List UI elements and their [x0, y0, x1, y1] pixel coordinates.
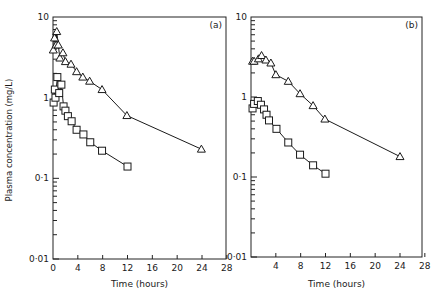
triangle-marker	[59, 49, 67, 56]
x-tick-label: 28	[221, 263, 233, 273]
panel-b-xtick-labels: 481216202428	[273, 261, 431, 271]
panel-b-ticks	[251, 21, 425, 257]
panel-a-ytick-labels: 0·010·1110	[29, 12, 49, 264]
x-tick-label: 16	[345, 261, 357, 271]
triangle-marker	[284, 77, 292, 84]
triangle-marker	[86, 77, 94, 84]
x-tick-label: 24	[394, 261, 406, 271]
x-tick-label: 28	[419, 261, 431, 271]
triangle-marker	[98, 86, 106, 93]
y-tick-label: 0·01	[227, 252, 247, 262]
panel-a-ticks	[53, 21, 227, 259]
panel-b-x-axis-title: Time (hours)	[307, 279, 365, 289]
panel-a-xtick-labels: 0481216202428	[50, 263, 233, 273]
x-tick-label: 12	[320, 261, 331, 271]
x-tick-label: 16	[147, 263, 159, 273]
x-tick-label: 4	[273, 261, 279, 271]
square-marker	[58, 81, 65, 88]
panel-a-x-axis-title: Time (hours)	[110, 279, 168, 289]
square-marker	[310, 162, 317, 169]
panel-b-label: (b)	[405, 20, 418, 30]
x-tick-label: 8	[298, 261, 304, 271]
triangle-marker	[53, 28, 61, 35]
y-tick-label: 10	[236, 12, 248, 22]
panel-a-frame	[53, 17, 226, 259]
square-marker	[273, 125, 280, 132]
panel-b-series	[249, 52, 404, 178]
y-tick-label: 1	[241, 92, 247, 102]
square-marker	[56, 90, 63, 97]
x-tick-label: 4	[75, 263, 81, 273]
y-tick-label: 1	[43, 93, 49, 103]
triangle-marker	[396, 153, 404, 160]
triangle-marker	[272, 71, 280, 78]
square-marker	[73, 126, 80, 133]
square-marker	[124, 163, 131, 170]
x-tick-label: 20	[369, 261, 381, 271]
panel-a-series	[49, 28, 205, 170]
panel-b-ytick-labels: 0·010·1110	[227, 12, 247, 262]
panel-b: 481216202428 0·010·1110 (b) Time (hours)	[227, 12, 431, 289]
y-tick-label: 0·1	[35, 173, 49, 183]
x-tick-label: 12	[122, 263, 133, 273]
y-tick-label: 0·1	[233, 172, 247, 182]
square-marker	[80, 131, 87, 138]
panel-a-label: (a)	[209, 20, 222, 30]
chart-figure: 0481216202428 0·010·1110 (a) Time (hours…	[0, 0, 443, 300]
square-marker	[99, 147, 106, 154]
x-tick-label: 8	[100, 263, 106, 273]
y-tick-label: 0·01	[29, 254, 49, 264]
square-marker	[54, 74, 61, 81]
series-line-squares	[54, 77, 128, 166]
square-marker	[322, 170, 329, 177]
square-marker	[285, 139, 292, 146]
series-line-triangles	[253, 56, 400, 157]
x-tick-label: 20	[171, 263, 183, 273]
x-tick-label: 0	[50, 263, 56, 273]
square-marker	[266, 117, 273, 124]
y-tick-label: 10	[38, 12, 50, 22]
y-axis-title: Plasma concentration (mg/L)	[4, 79, 14, 202]
x-tick-label: 24	[196, 263, 208, 273]
square-marker	[297, 151, 304, 158]
panel-b-frame	[251, 17, 422, 257]
square-marker	[87, 139, 94, 146]
panel-a: 0481216202428 0·010·1110 (a) Time (hours…	[29, 12, 233, 289]
square-marker	[68, 118, 75, 125]
triangle-marker	[197, 145, 205, 152]
